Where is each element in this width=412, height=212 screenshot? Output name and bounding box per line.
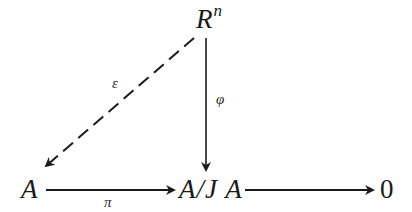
node-a: A bbox=[21, 176, 38, 203]
node-rn-sup: n bbox=[214, 1, 223, 20]
label-pi: π bbox=[104, 195, 112, 210]
label-phi: φ bbox=[216, 92, 224, 107]
node-zero: 0 bbox=[380, 176, 394, 203]
epsilon-arrow bbox=[46, 38, 194, 166]
label-epsilon: ε bbox=[112, 76, 118, 91]
node-rn: Rn bbox=[196, 6, 222, 33]
node-rn-base: R bbox=[196, 4, 213, 34]
node-a-mod-ja: A/J A bbox=[179, 176, 243, 203]
